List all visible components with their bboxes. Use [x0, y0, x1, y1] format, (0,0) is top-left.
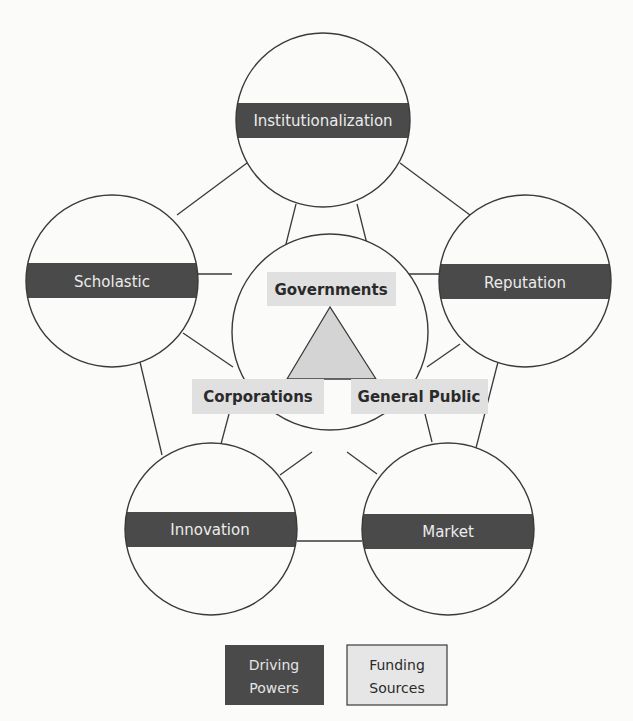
legend-swatch-dark	[225, 645, 324, 705]
label-governments: Governments	[274, 281, 387, 299]
node-reputation: Reputation	[430, 195, 630, 367]
node-institutionalization: Institutionalization	[230, 33, 420, 207]
funding-general-public: General Public	[351, 379, 488, 414]
label-scholastic: Scholastic	[74, 273, 150, 291]
legend-driving-line2: Powers	[249, 680, 299, 696]
spoke-scholastic-2	[183, 333, 233, 367]
label-corporations: Corporations	[203, 388, 313, 406]
spoke-market-2	[425, 414, 432, 442]
legend-funding-line1: Funding	[369, 657, 425, 673]
legend-funding-line2: Sources	[369, 680, 424, 696]
spoke-innovation-1	[221, 414, 229, 444]
edge-institutionalization-scholastic	[177, 163, 247, 215]
node-scholastic: Scholastic	[20, 195, 210, 367]
legend: Driving Powers Funding Sources	[225, 645, 447, 705]
legend-swatch-light	[347, 645, 447, 705]
spoke-innovation-2	[280, 452, 312, 475]
node-innovation: Innovation	[120, 443, 310, 615]
driving-powers-diagram: Institutionalization Scholastic Reputati…	[0, 0, 633, 721]
edge-scholastic-innovation	[140, 362, 162, 455]
funding-governments: Governments	[267, 272, 396, 306]
funding-corporations: Corporations	[192, 379, 324, 414]
spoke-market-1	[347, 452, 377, 474]
legend-funding-sources: Funding Sources	[347, 645, 447, 705]
spoke-reputation-2	[427, 344, 460, 367]
label-reputation: Reputation	[484, 274, 566, 292]
label-general-public: General Public	[358, 388, 481, 406]
legend-driving-line1: Driving	[249, 657, 299, 673]
legend-driving-powers: Driving Powers	[225, 645, 324, 705]
label-innovation: Innovation	[170, 521, 249, 539]
node-market: Market	[355, 443, 545, 615]
edge-institutionalization-reputation	[400, 163, 470, 215]
label-institutionalization: Institutionalization	[253, 112, 392, 130]
label-market: Market	[422, 523, 474, 541]
